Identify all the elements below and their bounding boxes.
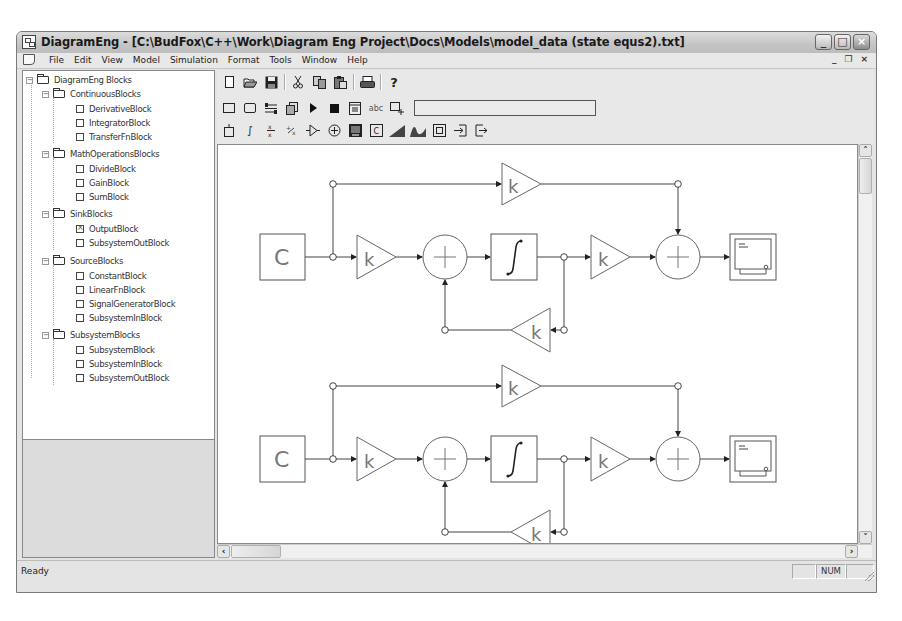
collapse-icon[interactable]: −: [42, 211, 49, 218]
new-icon[interactable]: [221, 74, 237, 90]
collapse-icon[interactable]: −: [42, 91, 49, 98]
tree-group-continuous[interactable]: − ContinuousBlocks: [42, 87, 141, 101]
paste-icon[interactable]: [332, 74, 348, 90]
scroll-right-button[interactable]: ›: [845, 545, 858, 558]
menu-tools[interactable]: Tools: [265, 54, 297, 66]
close-button[interactable]: ×: [853, 34, 870, 50]
numerical-solver-icon[interactable]: [347, 100, 363, 116]
menu-file[interactable]: File: [44, 54, 69, 66]
derivative-block-icon[interactable]: [221, 122, 237, 138]
help-icon[interactable]: ?: [386, 74, 402, 90]
auto-fit-icon[interactable]: [263, 100, 279, 116]
mdi-minimize-button[interactable]: _: [832, 54, 837, 64]
branch-node[interactable]: [442, 327, 449, 334]
tree-item-subsystem-block[interactable]: SubsystemBlock: [76, 343, 155, 357]
vertical-scroll-thumb[interactable]: [859, 158, 872, 194]
tree-item-sum-block[interactable]: SumBlock: [76, 190, 129, 204]
gain-block[interactable]: k: [502, 163, 541, 205]
tree-item-subsystem-in-block[interactable]: SubsystemInBlock: [76, 311, 162, 325]
branch-node[interactable]: [561, 327, 568, 334]
gain-block[interactable]: k: [357, 235, 396, 279]
tree-group-sink[interactable]: − SinkBlocks: [42, 207, 112, 221]
branch-node[interactable]: [675, 181, 682, 188]
collapse-icon[interactable]: −: [42, 258, 49, 265]
menu-view[interactable]: View: [97, 54, 128, 66]
block-library-tree[interactable]: − DiagramEng Blocks − ContinuousBlocks D…: [22, 70, 215, 440]
divide-block-icon[interactable]: +x: [284, 122, 300, 138]
collapse-icon[interactable]: −: [42, 151, 49, 158]
text-annotation-icon[interactable]: abc: [368, 100, 384, 116]
gain-block[interactable]: k: [591, 235, 630, 279]
menu-simulation[interactable]: Simulation: [165, 54, 223, 66]
sum-block[interactable]: [423, 235, 467, 279]
minimize-button[interactable]: _: [815, 34, 832, 50]
sum-block-icon[interactable]: [326, 122, 342, 138]
menu-format[interactable]: Format: [223, 54, 265, 66]
net-connection-icon[interactable]: [389, 100, 405, 116]
branch-node[interactable]: [330, 254, 337, 261]
output-block-icon[interactable]: [347, 122, 363, 138]
tree-root[interactable]: − DiagramEng Blocks: [26, 73, 132, 87]
mdi-restore-button[interactable]: ❐: [844, 54, 852, 64]
tree-item-subsystem-in-block-2[interactable]: SubsystemInBlock: [76, 357, 162, 371]
tree-item-signal-generator-block[interactable]: SignalGeneratorBlock: [76, 297, 175, 311]
tree-group-subsystem[interactable]: − SubsystemBlocks: [42, 328, 140, 342]
stop-simulation-icon[interactable]: [326, 100, 342, 116]
tree-item-subsystem-out-block[interactable]: SubsystemOutBlock: [76, 236, 169, 250]
tree-item-subsystem-out-block-2[interactable]: SubsystemOutBlock: [76, 371, 169, 385]
print-icon[interactable]: [359, 74, 375, 90]
menu-model[interactable]: Model: [128, 54, 165, 66]
linear-fn-block-icon[interactable]: [389, 122, 405, 138]
document-icon[interactable]: [23, 54, 35, 65]
tree-group-source[interactable]: − SourceBlocks: [42, 254, 123, 268]
select-all-icon[interactable]: [221, 100, 237, 116]
tree-item-divide-block[interactable]: DivideBlock: [76, 162, 136, 176]
scroll-down-button[interactable]: ˅: [859, 531, 872, 544]
tree-item-output-block[interactable]: OutputBlock: [76, 222, 138, 236]
save-icon[interactable]: [263, 74, 279, 90]
menu-help[interactable]: Help: [342, 54, 373, 66]
output-block[interactable]: [730, 234, 776, 280]
menu-window[interactable]: Window: [297, 54, 343, 66]
integrator-block-icon[interactable]: ∫: [242, 122, 258, 138]
toolbar-text-field[interactable]: [414, 100, 596, 116]
build-model-icon[interactable]: [284, 100, 300, 116]
scroll-up-button[interactable]: ˄: [859, 144, 872, 157]
collapse-icon[interactable]: −: [42, 332, 49, 339]
signal-generator-block-icon[interactable]: [410, 122, 426, 138]
sum-block[interactable]: [656, 235, 700, 279]
tree-item-gain-block[interactable]: GainBlock: [76, 176, 129, 190]
tree-item-linear-fn-block[interactable]: LinearFnBlock: [76, 283, 145, 297]
branch-node[interactable]: [561, 254, 568, 261]
constant-block-icon[interactable]: C: [368, 122, 384, 138]
feedback-gain-block[interactable]: k: [511, 308, 550, 352]
gain-block-icon[interactable]: [305, 122, 321, 138]
collapse-icon[interactable]: −: [26, 77, 33, 84]
tree-item-derivative-block[interactable]: DerivativeBlock: [76, 102, 151, 116]
subsystem-block-icon[interactable]: [431, 122, 447, 138]
horizontal-scrollbar[interactable]: ‹ ›: [217, 544, 872, 558]
copy-icon[interactable]: [311, 74, 327, 90]
menu-edit[interactable]: Edit: [69, 54, 96, 66]
resize-grip-icon[interactable]: [864, 571, 874, 581]
transfer-fn-block-icon[interactable]: xx: [263, 122, 279, 138]
app-icon[interactable]: [22, 35, 36, 49]
horizontal-scroll-thumb[interactable]: [231, 545, 281, 558]
diagram-canvas[interactable]: C k: [217, 144, 858, 544]
tree-group-math-operations[interactable]: − MathOperationsBlocks: [42, 147, 159, 161]
subsystem-out-block-icon[interactable]: [473, 122, 489, 138]
add-multiple-blocks-icon[interactable]: [242, 100, 258, 116]
maximize-button[interactable]: □: [834, 34, 851, 50]
tree-item-constant-block[interactable]: ConstantBlock: [76, 269, 146, 283]
integrator-block[interactable]: [491, 234, 537, 280]
mdi-close-button[interactable]: ×: [860, 54, 868, 64]
open-icon[interactable]: [242, 74, 258, 90]
branch-node[interactable]: [330, 181, 337, 188]
tree-item-transfer-fn-block[interactable]: TransferFnBlock: [76, 130, 152, 144]
scroll-left-button[interactable]: ‹: [217, 545, 230, 558]
tree-item-integrator-block[interactable]: IntegratorBlock: [76, 116, 150, 130]
vertical-scrollbar[interactable]: ˄ ˅: [858, 144, 872, 544]
cut-icon[interactable]: [290, 74, 306, 90]
title-bar[interactable]: DiagramEng - [C:\BudFox\C++\Work\Diagram…: [17, 32, 876, 54]
subsystem-in-block-icon[interactable]: [452, 122, 468, 138]
